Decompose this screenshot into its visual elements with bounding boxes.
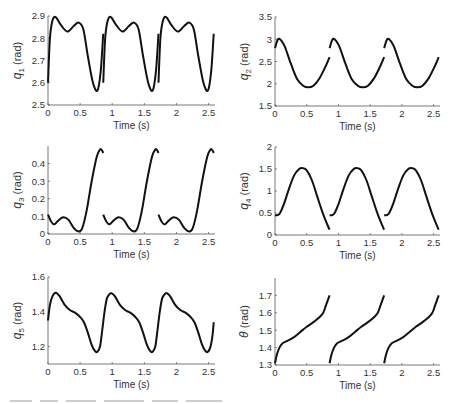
x-tick-label: 1.5 bbox=[138, 107, 151, 118]
x-tick-label: 0 bbox=[272, 108, 277, 119]
y-tick-label: 1.4 bbox=[259, 342, 272, 353]
x-tick-label: 0.5 bbox=[300, 108, 313, 119]
curve-segment bbox=[103, 17, 158, 91]
y-tick-label: 0.5 bbox=[259, 207, 272, 218]
y-tick-label: 1.5 bbox=[259, 163, 272, 174]
y-axis-label: θ (rad) bbox=[237, 305, 251, 338]
x-tick-label: 0.5 bbox=[74, 366, 87, 377]
x-tick-label: 1.5 bbox=[138, 236, 151, 247]
x-tick-label: 2.5 bbox=[202, 366, 215, 377]
x-tick-label: 0 bbox=[272, 367, 277, 378]
y-tick-label: 1.6 bbox=[259, 307, 272, 318]
x-tick-label: 0 bbox=[45, 107, 50, 118]
y-tick-label: 1.2 bbox=[32, 341, 45, 352]
y-tick-label: 1.3 bbox=[259, 359, 272, 370]
y-axis-label: q3 (rad) bbox=[10, 171, 26, 208]
axes: 00.511.522.51.522.533.5 bbox=[259, 11, 440, 119]
y-tick-label: 2 bbox=[267, 78, 272, 89]
curve-segment bbox=[384, 39, 439, 88]
axes: 00.511.522.51.21.41.6 bbox=[32, 271, 215, 377]
curve-segment bbox=[330, 39, 385, 88]
curve-segment bbox=[158, 17, 213, 91]
y-tick-label: 2.5 bbox=[259, 56, 272, 67]
curve-segment bbox=[158, 149, 213, 231]
data-series bbox=[275, 39, 439, 88]
curve-segment bbox=[48, 149, 103, 231]
x-tick-label: 0.5 bbox=[300, 237, 313, 248]
y-axis-label: q5 (rad) bbox=[10, 302, 26, 339]
x-tick-label: 0 bbox=[45, 366, 50, 377]
curve-segment bbox=[275, 168, 330, 230]
x-tick-label: 2.5 bbox=[427, 237, 440, 248]
plot-svg: 00.511.522.500.10.20.30.4Time (s)q3 (rad… bbox=[0, 130, 230, 262]
y-tick-label: 2.8 bbox=[32, 33, 45, 44]
y-axis-label: q2 (rad) bbox=[237, 43, 253, 80]
x-tick-label: 1 bbox=[336, 367, 341, 378]
curve-segment bbox=[275, 295, 330, 363]
plot-svg: 00.511.522.51.21.41.6Time (s)q5 (rad) bbox=[0, 262, 230, 394]
y-tick-label: 2.9 bbox=[32, 10, 45, 21]
x-tick-label: 2.5 bbox=[202, 236, 215, 247]
y-tick-label: 0.2 bbox=[32, 193, 45, 204]
y-tick-label: 0.3 bbox=[32, 176, 45, 187]
x-tick-label: 1.5 bbox=[364, 108, 377, 119]
x-tick-label: 2 bbox=[174, 366, 179, 377]
x-tick-label: 1.5 bbox=[138, 366, 151, 377]
plot-svg: 00.511.522.51.31.41.51.61.7Time (s)θ (ra… bbox=[225, 262, 453, 394]
data-series bbox=[275, 168, 439, 230]
plot-svg: 00.511.522.51.522.533.5Time (s)q2 (rad) bbox=[225, 0, 453, 132]
subplot-theta: 00.511.522.51.31.41.51.61.7Time (s)θ (ra… bbox=[225, 262, 453, 394]
subplot-q3: 00.511.522.500.10.20.30.4Time (s)q3 (rad… bbox=[0, 130, 230, 262]
plot-svg: 00.511.522.500.511.52Time (s)q4 (rad) bbox=[225, 130, 453, 262]
y-tick-label: 0.4 bbox=[32, 158, 45, 169]
x-tick-label: 2 bbox=[399, 367, 404, 378]
data-series bbox=[275, 295, 439, 363]
x-tick-label: 2 bbox=[174, 107, 179, 118]
y-tick-label: 1.7 bbox=[259, 290, 272, 301]
x-tick-label: 1.5 bbox=[364, 367, 377, 378]
x-tick-label: 2.5 bbox=[427, 367, 440, 378]
curve-segment bbox=[111, 293, 166, 353]
curve-segment bbox=[384, 168, 439, 230]
y-tick-label: 2.7 bbox=[32, 55, 45, 66]
subplot-q5: 00.511.522.51.21.41.6Time (s)q5 (rad) bbox=[0, 262, 230, 394]
subplot-q1: 00.511.522.52.52.62.72.82.9Time (s)q1 (r… bbox=[0, 0, 230, 132]
y-tick-label: 1 bbox=[267, 185, 272, 196]
y-tick-label: 1.4 bbox=[32, 306, 45, 317]
x-tick-label: 0 bbox=[45, 236, 50, 247]
x-axis-label: Time (s) bbox=[339, 250, 375, 261]
curve-segment bbox=[384, 295, 439, 363]
curve-segment bbox=[166, 293, 214, 353]
data-series bbox=[48, 149, 214, 231]
y-tick-label: 3 bbox=[267, 34, 272, 45]
x-axis-label: Time (s) bbox=[113, 249, 149, 260]
y-axis-label: q1 (rad) bbox=[10, 42, 26, 79]
y-tick-label: 0.1 bbox=[32, 211, 45, 222]
figure-caption-partial bbox=[10, 396, 310, 404]
y-tick-label: 0 bbox=[40, 228, 45, 239]
x-tick-label: 0.5 bbox=[74, 236, 87, 247]
subplot-q4: 00.511.522.500.511.52Time (s)q4 (rad) bbox=[225, 130, 453, 262]
curve-segment bbox=[330, 295, 385, 363]
x-tick-label: 0 bbox=[272, 237, 277, 248]
x-tick-label: 1 bbox=[336, 237, 341, 248]
y-tick-label: 1.5 bbox=[259, 325, 272, 336]
x-tick-label: 0.5 bbox=[74, 107, 87, 118]
plot-svg: 00.511.522.52.52.62.72.82.9Time (s)q1 (r… bbox=[0, 0, 230, 132]
x-tick-label: 1.5 bbox=[364, 237, 377, 248]
x-tick-label: 2 bbox=[174, 236, 179, 247]
curve-segment bbox=[330, 168, 385, 230]
x-tick-label: 2.5 bbox=[202, 107, 215, 118]
x-tick-label: 2 bbox=[399, 108, 404, 119]
curve-segment bbox=[275, 39, 330, 88]
x-axis-label: Time (s) bbox=[339, 380, 375, 391]
x-tick-label: 2.5 bbox=[427, 108, 440, 119]
y-tick-label: 3.5 bbox=[259, 11, 272, 22]
y-tick-label: 2.6 bbox=[32, 77, 45, 88]
data-series bbox=[48, 17, 214, 91]
x-axis-label: Time (s) bbox=[113, 379, 149, 390]
data-series bbox=[48, 293, 214, 353]
x-tick-label: 1 bbox=[336, 108, 341, 119]
x-tick-label: 1 bbox=[110, 366, 115, 377]
y-tick-label: 1.6 bbox=[32, 271, 45, 282]
